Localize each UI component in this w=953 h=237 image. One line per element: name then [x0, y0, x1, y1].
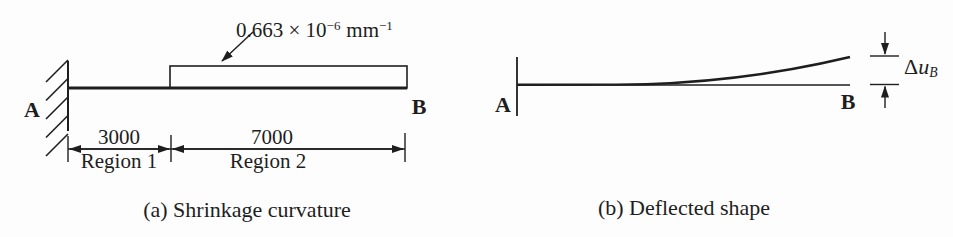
deflection-delta-ub-label: ΔuB — [904, 56, 937, 80]
dim-length-region1: 3000 — [98, 127, 140, 148]
shrinkage-curvature-figure: A B 0.663 × 10−6mm−1 3000 Region 1 7000 … — [0, 0, 953, 237]
fixed-support-a — [46, 60, 68, 156]
curvature-exponent: −6 — [327, 18, 341, 33]
u-subscript-b: B — [929, 65, 937, 80]
dim-name-region2: Region 2 — [230, 151, 306, 172]
curvature-diagram-rect — [170, 66, 407, 88]
curvature-value-label: 0.663 × 10−6mm−1 — [236, 19, 393, 41]
point-label-a-fig-b: A — [495, 94, 511, 116]
point-label-b-fig-b: B — [841, 91, 856, 113]
curvature-unit-exponent: −1 — [379, 18, 393, 33]
curvature-unit: mm — [346, 18, 379, 42]
caption-fig-a: (a) Shrinkage curvature — [143, 199, 351, 221]
dim-length-region2: 7000 — [251, 127, 293, 148]
u-variable: u — [918, 54, 929, 79]
deflection-gap-indicator — [870, 32, 899, 108]
deflected-shape-curve — [517, 57, 850, 85]
point-label-a-fig-a: A — [24, 99, 40, 121]
caption-fig-b: (b) Deflected shape — [598, 197, 770, 219]
dim-name-region1: Region 1 — [81, 151, 157, 172]
point-label-b-fig-a: B — [412, 96, 427, 118]
delta-symbol: Δ — [904, 54, 918, 79]
curvature-coefficient: 0.663 × 10 — [236, 18, 327, 42]
support-hatching — [46, 60, 68, 156]
